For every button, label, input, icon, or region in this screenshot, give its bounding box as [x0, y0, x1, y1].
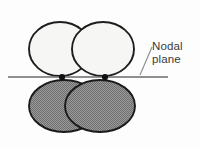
nucleus-right-dot: [102, 74, 108, 80]
nucleus-left-dot: [59, 74, 65, 80]
orbital-diagram-svg: [0, 0, 200, 148]
nodal-plane-label-line1: Nodal: [152, 40, 183, 53]
nodal-plane-label-line2: plane: [152, 53, 181, 66]
leader-line: [140, 47, 152, 75]
figure-canvas: Nodal plane: [0, 0, 200, 148]
lower-right-lobe: [65, 80, 135, 132]
upper-right-lobe: [72, 22, 134, 76]
